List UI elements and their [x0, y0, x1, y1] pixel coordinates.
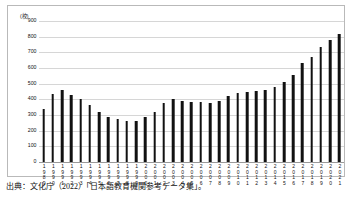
bar-slot	[57, 21, 66, 162]
bar	[135, 121, 138, 162]
bar	[199, 102, 202, 162]
y-axis-tick-label: 700	[28, 50, 37, 55]
bar-slot	[224, 21, 233, 162]
y-axis-tick-label: 300	[28, 112, 37, 117]
x-axis-tick-label: 2015	[281, 163, 286, 185]
bar	[283, 82, 286, 162]
y-axis-tick-label: 200	[28, 128, 37, 133]
bar-slot	[178, 21, 187, 162]
x-axis-tick-label: 2009	[226, 163, 231, 185]
bar-slot	[48, 21, 57, 162]
bar	[116, 119, 119, 162]
source-caption: 出典：文化庁（2022）「日本語教育機関参考データ集」。	[6, 182, 206, 192]
x-axis-tick-label: 2018	[309, 163, 314, 185]
x-axis-tick-label: 2014	[272, 163, 277, 185]
y-axis-tick-label: 100	[28, 144, 37, 149]
bar	[153, 112, 156, 162]
bar-slot	[113, 21, 122, 162]
bar	[264, 90, 267, 162]
bar-slot	[187, 21, 196, 162]
x-axis-tick-label: 2011	[244, 163, 249, 185]
x-axis-tick-label: 2019	[318, 163, 323, 185]
x-axis-tick-label: 2008	[217, 163, 222, 185]
bar-slot	[298, 21, 307, 162]
bar-slot	[242, 21, 251, 162]
bar-slot	[67, 21, 76, 162]
x-axis-tick-label: 2010	[235, 163, 240, 185]
bar-slot	[159, 21, 168, 162]
bar-slot	[215, 21, 224, 162]
x-axis-tick-label: 2017	[300, 163, 305, 185]
bar	[273, 87, 276, 162]
bar-slot	[252, 21, 261, 162]
bar-slot	[270, 21, 279, 162]
bar	[172, 99, 175, 162]
y-axis-tick-label: 900	[28, 18, 37, 23]
bar	[52, 94, 55, 162]
y-axis-tick-label: 600	[28, 65, 37, 70]
bar-slot	[307, 21, 316, 162]
bar-slot	[279, 21, 288, 162]
y-axis-tick-label: 500	[28, 81, 37, 86]
x-axis-tick-label: 2021	[337, 163, 342, 185]
bar	[79, 99, 82, 162]
x-axis-tick-label: 2012	[254, 163, 259, 185]
bar	[89, 105, 92, 162]
x-axis-tick-label: 2016	[291, 163, 296, 185]
figure-container: (校) 0100200300400500600700800900 (年) 198…	[0, 0, 352, 198]
y-axis-tick-label: 0	[34, 159, 37, 164]
bar-slot	[85, 21, 94, 162]
bar	[329, 40, 332, 162]
bar	[61, 90, 64, 162]
bar-slot	[141, 21, 150, 162]
bar-slot	[94, 21, 103, 162]
bar	[98, 112, 101, 162]
bar-slot	[335, 21, 344, 162]
bar	[209, 103, 212, 162]
bar-slot	[168, 21, 177, 162]
bar-slot	[233, 21, 242, 162]
bar	[125, 121, 128, 162]
bar	[236, 93, 239, 162]
bar	[144, 117, 147, 162]
bar	[218, 101, 221, 162]
bar	[162, 103, 165, 162]
bar	[246, 92, 249, 162]
bar	[190, 102, 193, 162]
bar	[320, 47, 323, 162]
bar-slot	[196, 21, 205, 162]
chart-frame: (校) 0100200300400500600700800900 (年) 198…	[7, 5, 345, 177]
x-axis-tick-label: 2007	[207, 163, 212, 185]
bar	[227, 96, 230, 162]
bar-slot	[289, 21, 298, 162]
bar-slot	[39, 21, 48, 162]
bar	[310, 57, 313, 162]
bar-slot	[205, 21, 214, 162]
bar	[107, 117, 110, 162]
bar	[181, 101, 184, 162]
x-axis-tick-label: 2013	[263, 163, 268, 185]
y-axis-tick-label: 400	[28, 97, 37, 102]
bar-slot	[326, 21, 335, 162]
bar-slot	[316, 21, 325, 162]
bar-slot	[261, 21, 270, 162]
bar-slot	[150, 21, 159, 162]
plot-area: 0100200300400500600700800900	[39, 21, 344, 162]
bar	[338, 34, 341, 162]
bars-group	[39, 21, 344, 162]
bar	[301, 63, 304, 162]
bar	[42, 109, 45, 162]
bar-slot	[104, 21, 113, 162]
y-axis-tick-label: 800	[28, 34, 37, 39]
bar-slot	[131, 21, 140, 162]
bar	[255, 91, 258, 162]
x-axis-tick-label: 2020	[328, 163, 333, 185]
bar	[70, 95, 73, 162]
bar-slot	[76, 21, 85, 162]
bar-slot	[122, 21, 131, 162]
bar	[292, 75, 295, 162]
